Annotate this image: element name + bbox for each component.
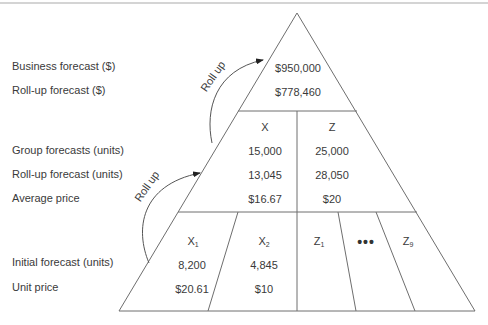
rollup-forecast-dollars-value: $778,460	[275, 86, 321, 99]
item-x2-initial-forecast: 4,845	[250, 259, 278, 272]
group-z-rollup: 28,050	[315, 169, 349, 182]
item-x2-unit-price: $10	[255, 283, 273, 296]
item-x1-initial-forecast: 8,200	[178, 259, 206, 272]
label-unit-price: Unit price	[12, 281, 58, 294]
item-z1-name: Z1	[314, 235, 325, 251]
dots-z9-divider	[376, 212, 415, 311]
x1-x2-divider	[208, 212, 238, 311]
group-z-name: Z	[329, 121, 336, 134]
label-initial-forecast: Initial forecast (units)	[12, 256, 113, 269]
item-x2-name: X2	[258, 235, 269, 251]
group-x-rollup: 13,045	[248, 169, 282, 182]
ellipsis-icon: •••	[357, 236, 375, 249]
label-average-price: Average price	[12, 192, 80, 205]
label-group-forecasts: Group forecasts (units)	[12, 144, 124, 157]
business-forecast-value: $950,000	[275, 62, 321, 75]
label-rollup-forecast-dollars: Roll-up forecast ($)	[12, 84, 106, 97]
group-z-forecast: 25,000	[315, 145, 349, 158]
group-x-name: X	[261, 121, 268, 134]
item-x1-unit-price: $20.61	[175, 283, 209, 296]
item-z9-name: Z9	[403, 235, 414, 251]
pyramid-diagram	[0, 0, 488, 325]
group-x-avg-price: $16.67	[248, 193, 282, 206]
item-x1-name: X1	[187, 235, 198, 251]
group-x-forecast: 15,000	[248, 145, 282, 158]
z1-dots-divider	[338, 212, 356, 311]
label-rollup-forecast-units: Roll-up forecast (units)	[12, 168, 123, 181]
group-z-avg-price: $20	[323, 193, 341, 206]
label-business-forecast: Business forecast ($)	[12, 60, 115, 73]
